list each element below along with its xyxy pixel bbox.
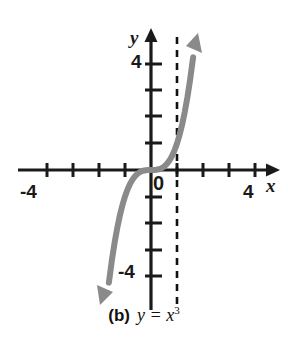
y-axis-arrowhead (145, 28, 158, 42)
caption-equation-exponent: 3 (174, 304, 180, 316)
caption-part-label: (b) (108, 306, 130, 325)
caption-equation-base: y = x (137, 305, 174, 325)
cubic-function-plot (0, 0, 288, 342)
graph-figure: y x 4 -4 -4 4 0 (b)y = x3 (0, 0, 288, 342)
origin-label: 0 (153, 173, 164, 193)
y-axis-label: y (130, 28, 138, 47)
x-axis-label: x (266, 176, 276, 195)
caption-equation: y = x3 (137, 305, 180, 325)
figure-caption: (b)y = x3 (0, 305, 288, 324)
x-tick-label-neg4: -4 (20, 182, 37, 201)
x-tick-label-4: 4 (243, 182, 254, 201)
curve-arrowhead-upper-right (186, 33, 202, 53)
y-tick-label-4: 4 (131, 52, 142, 71)
curve-arrowhead-lower-left (97, 285, 113, 305)
y-tick-label-neg4: -4 (118, 262, 135, 281)
